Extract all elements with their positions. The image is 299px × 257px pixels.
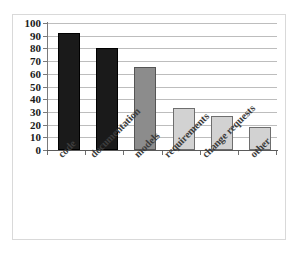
y-tick-label-0: 0 [13, 145, 41, 155]
bar-code[interactable] [58, 33, 80, 150]
y-tick-label-50: 50 [13, 82, 41, 92]
y-tick-label-100: 100 [13, 18, 41, 28]
y-axis-tick-labels: 100 90 80 70 60 50 40 30 20 10 0 [11, 0, 41, 257]
x-axis-category-labels: code documentation models requirements c… [48, 152, 279, 242]
bar-chart-figure: 100 90 80 70 60 50 40 30 20 10 0 [0, 0, 299, 257]
gridline-50 [48, 87, 277, 88]
gridline-90 [48, 36, 277, 37]
plot-area [48, 23, 277, 150]
gridline-10 [48, 137, 277, 138]
gridline-40 [48, 99, 277, 100]
y-tick-label-80: 80 [13, 43, 41, 53]
y-tick-label-30: 30 [13, 107, 41, 117]
y-tick-label-20: 20 [13, 120, 41, 130]
y-tick-label-40: 40 [13, 94, 41, 104]
y-tick-label-10: 10 [13, 132, 41, 142]
gridline-70 [48, 61, 277, 62]
y-tick-label-60: 60 [13, 69, 41, 79]
y-tick-label-90: 90 [13, 31, 41, 41]
gridline-80 [48, 48, 277, 49]
gridline-100 [48, 23, 277, 24]
y-tick-label-70: 70 [13, 56, 41, 66]
gridline-60 [48, 74, 277, 75]
